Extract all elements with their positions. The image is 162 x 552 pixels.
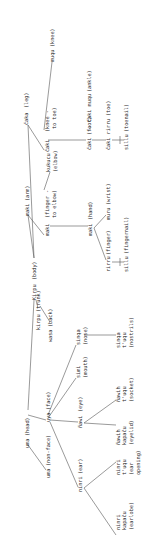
head-gloss: (head): [24, 417, 30, 436]
wrist-gloss: (wrist): [105, 183, 111, 205]
node-toenail: sillu (toenail): [123, 104, 129, 150]
node-non-face: uma (non-face): [45, 435, 51, 478]
node-toe: čaki rirru (toe): [105, 100, 111, 150]
leg-gloss: (leg): [23, 92, 30, 108]
knee-gloss: (knee): [49, 28, 55, 47]
node-back: wasa (back): [47, 308, 53, 342]
fingernail-term: sillu: [123, 256, 129, 272]
trunk-gloss: (trunk): [35, 290, 41, 312]
fingernail-gloss: (fingernail): [123, 217, 130, 254]
ankle-term: čaki muqu: [86, 94, 93, 122]
node-hand: maki (hand): [87, 201, 93, 236]
knee-term: muqu: [49, 50, 56, 63]
finger-gloss: (finger): [105, 230, 112, 255]
ear-opening-line-2: t'uqu: [121, 459, 128, 475]
node-nostrils: sinqa t'uqu (nostrils): [115, 317, 134, 348]
hand-term: maki: [87, 224, 93, 237]
node-finger-to-elbow: maki (finger - to elbow): [44, 190, 57, 236]
node-fingernail: sillu (fingernail): [123, 217, 130, 272]
node-finger: rirru (finger): [105, 230, 112, 272]
node-knee: muqu (knee): [49, 28, 56, 62]
partonomy-tree-diagram: Kirpu (body) čaka (leg) čaki (knee - to …: [0, 0, 162, 552]
arm-gloss: (arm): [24, 185, 30, 201]
knee-to-toe-gloss-1: (knee -: [44, 110, 50, 132]
nose-gloss: (nose): [82, 326, 88, 345]
earlobe-line-2: kapaču: [121, 511, 128, 530]
socket-line-2: t'uqu: [121, 386, 128, 402]
node-mouth: simi (mouth): [75, 356, 88, 378]
node-nose: sinqa (nose): [75, 326, 88, 345]
node-eyelid: ñawih kapaču (eyelid): [115, 420, 135, 445]
node-trunk: kirpu (trunk): [35, 290, 42, 330]
knee-to-toe-term: čaki: [44, 140, 50, 153]
mouth-gloss: (mouth): [82, 356, 88, 378]
body-gloss: (body): [31, 261, 38, 280]
node-elbow: kukucu (elbow): [45, 150, 58, 172]
toenail-term: sillu: [123, 134, 129, 150]
ear-term: ninri: [77, 476, 83, 492]
finger-to-elbow-term: maki: [44, 224, 50, 237]
elbow-gloss: (elbow): [52, 150, 58, 172]
trunk-term: kirpu: [35, 314, 42, 330]
node-earlobe: ninri kapaču (earlobe): [115, 502, 134, 530]
foot-term: čaki: [86, 138, 92, 151]
node-face: uya (face): [45, 391, 52, 422]
node-wrist: muru (wrist): [105, 183, 111, 220]
toe-term: čaki rirru: [105, 119, 111, 150]
node-arm: maki (arm): [24, 185, 30, 216]
leg-term: čaka: [23, 113, 29, 126]
nose-term: sinqa: [75, 329, 82, 345]
toe-gloss: (toe): [105, 100, 111, 116]
node-socket: ñawih t'uqu (socket): [115, 377, 134, 402]
mouth-term: simi: [75, 366, 81, 379]
ear-opening-gloss-2: opening): [135, 450, 142, 475]
toenail-gloss: (toenail): [123, 104, 129, 132]
ear-gloss: (ear): [77, 458, 83, 474]
node-leg: čaka (leg): [23, 92, 30, 125]
wrist-term: muru: [105, 208, 111, 221]
eyelid-line-2: kapaču: [121, 426, 128, 445]
node-ear-opening: ninri t'uqu (ear opening): [115, 450, 142, 475]
non-face-gloss: (non-face): [45, 435, 51, 466]
eye-term: ñawi: [77, 416, 83, 429]
finger-term: rirru: [105, 256, 111, 272]
node-eye: ñawi (eye): [77, 396, 84, 428]
nostrils-line-2: t'uqu: [121, 332, 128, 348]
elbow-term: kukucu: [45, 153, 51, 172]
head-term: uma: [24, 439, 30, 448]
arm-term: maki: [24, 204, 30, 217]
back-gloss: (back): [47, 308, 53, 327]
face-gloss: (face): [45, 391, 51, 410]
finger-to-elbow-gloss-2: to elbow): [51, 190, 57, 218]
ear-opening-gloss-1: (ear: [128, 463, 134, 476]
non-face-term: uma: [45, 469, 51, 478]
knee-to-toe-gloss-2: to toe): [51, 107, 57, 129]
socket-gloss: (socket): [128, 377, 134, 402]
face-term: uya: [45, 413, 52, 422]
eyelid-gloss: (eyelid): [128, 420, 135, 445]
back-term: wasa: [47, 330, 53, 343]
ankle-gloss: (ankle): [86, 70, 92, 92]
node-ankle: čaki muqu (ankle): [86, 70, 93, 122]
earlobe-gloss: (earlobe): [128, 502, 134, 530]
node-head: uma (head): [24, 417, 30, 448]
finger-to-elbow-gloss-1: (finger -: [44, 190, 51, 218]
nostrils-gloss: (nostrils): [128, 317, 134, 348]
hand-gloss: (hand): [87, 201, 93, 220]
node-knee-to-toe: čaki (knee - to toe): [44, 107, 57, 152]
eye-gloss: (eye): [77, 396, 84, 412]
node-ear: ninri (ear): [77, 458, 83, 492]
